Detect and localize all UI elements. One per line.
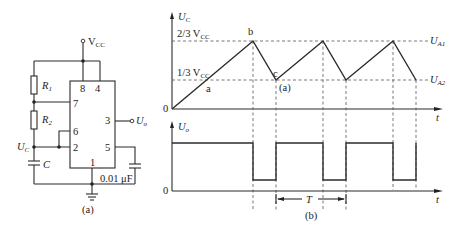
uc-x-label: t xyxy=(436,112,440,123)
point-c-note: (a) xyxy=(279,82,291,94)
wire-pin6 xyxy=(59,131,70,147)
pin-8-label: 8 xyxy=(80,83,85,94)
cap-value-label: 0.01 μF xyxy=(100,173,133,184)
vcc-terminal xyxy=(81,39,85,43)
waveform-uo: Uo t 0 T xyxy=(163,121,443,205)
point-b-label: b xyxy=(248,26,253,37)
period-label: T xyxy=(306,194,313,205)
pin-4-label: 4 xyxy=(95,83,101,94)
circuit-555: VCC 8 4 7 6 2 3 5 1 R1 R2 UC xyxy=(17,36,148,216)
uo-y-label: Uo xyxy=(178,121,190,134)
point-c-label: c xyxy=(273,68,278,79)
period-arrow-left xyxy=(277,197,284,201)
wire-pin5 xyxy=(115,147,135,164)
r2-label: R2 xyxy=(41,114,52,127)
uc-origin-label: 0 xyxy=(163,103,168,114)
ua2-label: UA2 xyxy=(430,74,446,87)
ua1-label: UA1 xyxy=(430,35,445,48)
pin-6-label: 6 xyxy=(73,126,78,137)
pin-3-label: 3 xyxy=(105,115,110,126)
uc-x-axis-arrow xyxy=(434,107,443,111)
uo-output-label: Uo xyxy=(136,115,148,128)
uo-origin-label: 0 xyxy=(163,185,168,196)
uc-y-axis-arrow xyxy=(170,12,174,19)
pin-2-label: 2 xyxy=(73,142,78,153)
pin-7-label: 7 xyxy=(73,98,78,109)
uo-x-label: t xyxy=(436,194,440,205)
uo-x-axis-arrow xyxy=(434,189,443,193)
resistor-r1 xyxy=(31,76,37,94)
c-label: C xyxy=(43,159,51,170)
period-dimension: T xyxy=(276,194,346,205)
caption-a: (a) xyxy=(82,204,94,216)
diagram-canvas: VCC 8 4 7 6 2 3 5 1 R1 R2 UC xyxy=(0,0,459,239)
uo-waveform-line xyxy=(172,143,416,180)
uc-node-label: UC xyxy=(17,141,30,154)
vcc-label: VCC xyxy=(88,36,105,49)
uc-y-label: UC xyxy=(178,11,191,24)
transition-guides xyxy=(253,41,416,210)
r1-label: R1 xyxy=(41,80,52,93)
point-a-label: a xyxy=(206,83,211,94)
upper-threshold-label: 2/3 VCC xyxy=(177,28,210,41)
caption-b: (b) xyxy=(305,210,318,222)
junction-gnd xyxy=(90,182,94,186)
pin-5-label: 5 xyxy=(105,142,110,153)
lower-threshold-label: 1/3 VCC xyxy=(177,67,210,80)
resistor-r2 xyxy=(31,111,37,129)
ground-icon xyxy=(86,194,98,200)
uo-y-axis-arrow xyxy=(170,121,174,128)
pin-1-label: 1 xyxy=(90,157,95,168)
period-arrow-right xyxy=(338,197,345,201)
output-terminal xyxy=(130,119,134,123)
